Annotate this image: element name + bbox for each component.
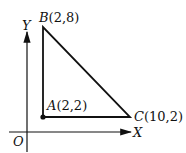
point-a-label: A(2,2) bbox=[46, 98, 87, 113]
point-c-label: C(10,2) bbox=[134, 109, 183, 124]
point-b-label: B(2,8) bbox=[38, 10, 79, 25]
origin-label: O bbox=[13, 134, 24, 149]
point-a-dot bbox=[40, 114, 45, 119]
coordinate-diagram: Y X O B(2,8) A(2,2) C(10,2) bbox=[0, 0, 186, 153]
y-axis-label: Y bbox=[22, 18, 32, 33]
x-axis-label: X bbox=[132, 125, 143, 140]
